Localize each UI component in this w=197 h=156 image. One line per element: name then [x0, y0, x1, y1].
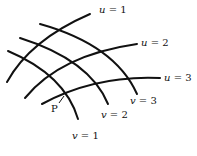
label-v-2: v = 2: [101, 109, 128, 120]
u-curve-2: [25, 44, 137, 98]
label-v-3: v = 3: [130, 95, 157, 106]
curvilinear-grid-diagram: u = 1 u = 2 u = 3 v = 1 v = 2 v = 3 P: [0, 0, 197, 156]
v-curve-3: [40, 24, 137, 94]
point-p-leader: [59, 96, 64, 103]
label-v-1: v = 1: [72, 130, 99, 141]
v-curve-1: [8, 51, 78, 119]
label-point-p: P: [51, 103, 58, 114]
label-u-2: u = 2: [141, 37, 169, 48]
label-u-3: u = 3: [164, 72, 192, 83]
label-u-1: u = 1: [99, 4, 127, 15]
